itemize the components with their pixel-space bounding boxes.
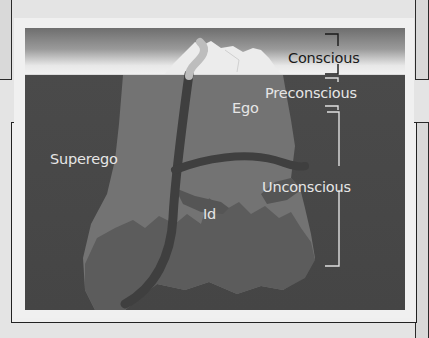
right-panel-fragment-top — [415, 0, 429, 80]
label-id: Id — [203, 207, 216, 222]
label-conscious: Conscious — [288, 51, 360, 66]
right-panel-fragment-bottom — [415, 122, 429, 338]
iceberg-diagram: Conscious Preconscious Ego Superego Unco… — [25, 28, 405, 310]
label-ego: Ego — [232, 101, 259, 116]
label-superego: Superego — [50, 152, 118, 167]
left-panel-fragment-top — [0, 0, 12, 80]
label-preconscious: Preconscious — [265, 86, 357, 101]
label-unconscious: Unconscious — [262, 180, 351, 195]
iceberg-illustration — [25, 28, 405, 310]
